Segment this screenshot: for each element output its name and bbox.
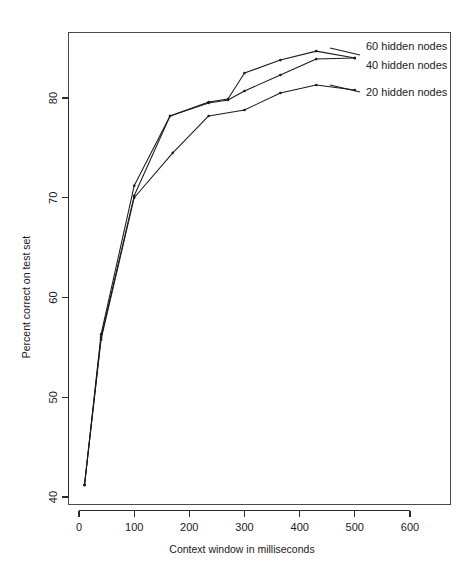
x-tick-label-5: 500 xyxy=(346,521,364,533)
x-tick-label-2: 200 xyxy=(180,521,198,533)
x-tick-label-3: 300 xyxy=(235,521,253,533)
data-point xyxy=(279,92,282,95)
data-point xyxy=(354,57,357,60)
data-point xyxy=(227,99,230,102)
data-point xyxy=(279,59,282,62)
y-tick-label-3: 70 xyxy=(47,192,59,204)
x-tick-label-1: 100 xyxy=(125,521,143,533)
legend-label-40-hidden-nodes: 40 hidden nodes xyxy=(366,59,448,71)
data-point xyxy=(243,72,246,75)
data-point xyxy=(133,184,136,187)
y-axis-title: Percent correct on test set xyxy=(20,236,32,359)
chart-figure: 40 50 60 70 80 0 100 200 300 400 500 600… xyxy=(0,0,475,576)
data-point xyxy=(207,102,210,105)
data-point xyxy=(315,50,318,53)
data-point xyxy=(171,152,174,155)
x-tick-label-4: 400 xyxy=(291,521,309,533)
y-tick-label-1: 50 xyxy=(47,391,59,403)
data-point xyxy=(315,58,318,61)
data-point xyxy=(243,109,246,112)
data-point xyxy=(100,338,103,341)
x-tick-label-0: 0 xyxy=(76,521,82,533)
data-point xyxy=(133,196,136,199)
data-point xyxy=(83,484,86,487)
data-point xyxy=(169,115,172,118)
y-tick-label-4: 80 xyxy=(47,92,59,104)
data-point xyxy=(279,74,282,77)
y-tick-label-2: 60 xyxy=(47,291,59,303)
data-point xyxy=(207,115,210,118)
legend-label-60-hidden-nodes: 60 hidden nodes xyxy=(366,40,448,52)
x-axis-title: Context window in milliseconds xyxy=(169,543,314,555)
legend-label-20-hidden-nodes: 20 hidden nodes xyxy=(366,86,448,98)
line-chart-canvas: 40 50 60 70 80 0 100 200 300 400 500 600… xyxy=(0,0,475,576)
y-tick-label-0: 40 xyxy=(47,491,59,503)
data-point xyxy=(243,90,246,93)
x-tick-label-6: 600 xyxy=(401,521,419,533)
data-point xyxy=(315,84,318,87)
